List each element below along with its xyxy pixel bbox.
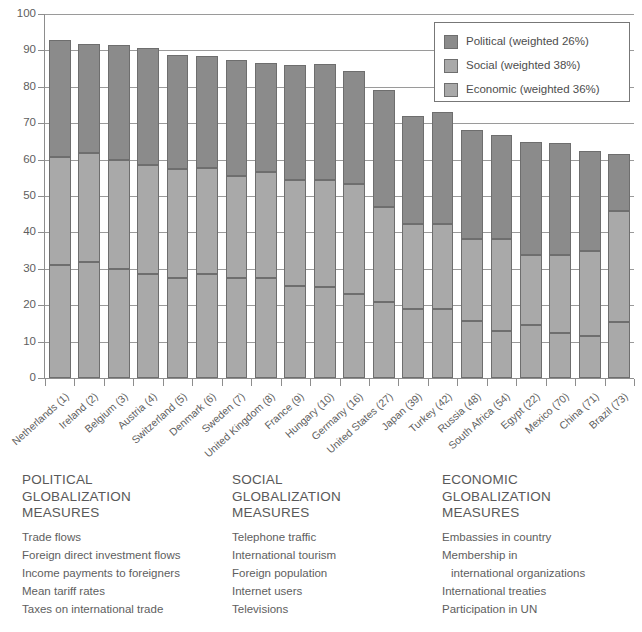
bar-segment-political[interactable] xyxy=(402,116,424,224)
measures-list: Trade flowsForeign direct investment flo… xyxy=(22,528,227,618)
bar-segment-political[interactable] xyxy=(432,112,454,224)
bar-segment-social[interactable] xyxy=(314,180,336,287)
bar-segment-social[interactable] xyxy=(78,153,100,262)
bar-group[interactable] xyxy=(343,14,365,378)
bar-group[interactable] xyxy=(255,14,277,378)
legend-item[interactable]: Political (weighted 26%) xyxy=(444,34,589,50)
measures-section: POLITICAL GLOBALIZATION MEASURESTrade fl… xyxy=(0,472,642,632)
measures-list-item: International treaties xyxy=(442,582,642,600)
measures-column: SOCIAL GLOBALIZATION MEASURESTelephone t… xyxy=(232,472,437,618)
gridline xyxy=(45,269,634,270)
legend-item[interactable]: Economic (weighted 36%) xyxy=(444,82,600,98)
y-tick-label: 80 xyxy=(2,81,36,93)
bar-segment-social[interactable] xyxy=(255,172,277,278)
bar-segment-social[interactable] xyxy=(432,224,454,308)
bar-group[interactable] xyxy=(314,14,336,378)
bar-segment-political[interactable] xyxy=(491,135,513,239)
bar-group[interactable] xyxy=(78,14,100,378)
bar-segment-social[interactable] xyxy=(196,168,218,274)
bar-segment-political[interactable] xyxy=(108,45,130,161)
bar-segment-social[interactable] xyxy=(137,165,159,274)
bar-group[interactable] xyxy=(196,14,218,378)
bar-segment-social[interactable] xyxy=(108,160,130,268)
measures-column-heading: SOCIAL GLOBALIZATION MEASURES xyxy=(232,472,437,522)
measures-list-item: Foreign population xyxy=(232,564,437,582)
bar-segment-social[interactable] xyxy=(49,157,71,265)
measures-column: POLITICAL GLOBALIZATION MEASURESTrade fl… xyxy=(22,472,227,618)
bar-segment-political[interactable] xyxy=(167,55,189,169)
bar-segment-political[interactable] xyxy=(226,60,248,176)
measures-list-item: Membership in xyxy=(442,546,642,564)
measures-list-item: International tourism xyxy=(232,546,437,564)
measures-list-item: Mean tariff rates xyxy=(22,582,227,600)
legend-label: Political (weighted 26%) xyxy=(466,36,589,48)
measures-list-item: Income payments to foreigners xyxy=(22,564,227,582)
bar-group[interactable] xyxy=(402,14,424,378)
measures-list-item: Taxes on international trade xyxy=(22,600,227,618)
bar-segment-political[interactable] xyxy=(549,143,571,255)
y-tick-label: 70 xyxy=(2,117,36,129)
x-tick-mark xyxy=(45,379,46,386)
globalization-index-chart: 0102030405060708090100 Netherlands (1)Ir… xyxy=(0,0,642,470)
bar-segment-social[interactable] xyxy=(549,255,571,333)
legend-swatch-icon xyxy=(444,59,458,73)
y-tick-label: 90 xyxy=(2,44,36,56)
bar-segment-social[interactable] xyxy=(608,211,630,322)
bar-segment-political[interactable] xyxy=(196,56,218,169)
bar-segment-social[interactable] xyxy=(491,239,513,331)
gridline xyxy=(45,305,634,306)
measures-column: ECONOMIC GLOBALIZATION MEASURESEmbassies… xyxy=(442,472,642,618)
chart-legend: Political (weighted 26%)Social (weighted… xyxy=(434,22,630,102)
gridline xyxy=(45,123,634,124)
measures-list-item: Telephone traffic xyxy=(232,528,437,546)
bar-segment-political[interactable] xyxy=(314,64,336,180)
bar-group[interactable] xyxy=(108,14,130,378)
bar-group[interactable] xyxy=(49,14,71,378)
y-tick-label: 60 xyxy=(2,154,36,166)
bar-segment-social[interactable] xyxy=(579,251,601,336)
bar-segment-social[interactable] xyxy=(284,180,306,286)
y-tick-label: 40 xyxy=(2,226,36,238)
y-tick-label: 0 xyxy=(2,372,36,384)
bar-segment-political[interactable] xyxy=(137,48,159,165)
legend-label: Economic (weighted 36%) xyxy=(466,84,600,96)
bar-segment-political[interactable] xyxy=(78,44,100,154)
bar-segment-political[interactable] xyxy=(461,130,483,238)
measures-list: Telephone trafficInternational tourismFo… xyxy=(232,528,437,618)
bar-segment-political[interactable] xyxy=(608,154,630,210)
bar-segment-political[interactable] xyxy=(49,40,71,156)
bar-group[interactable] xyxy=(226,14,248,378)
bar-segment-social[interactable] xyxy=(373,207,395,302)
measures-list-item: Internet users xyxy=(232,582,437,600)
bar-group[interactable] xyxy=(137,14,159,378)
bar-segment-political[interactable] xyxy=(373,90,395,207)
measures-list-item: international organizations xyxy=(442,564,642,582)
bar-segment-political[interactable] xyxy=(284,65,306,181)
y-tick-label: 100 xyxy=(2,8,36,20)
bar-segment-economic[interactable] xyxy=(49,265,71,378)
x-axis-labels: Netherlands (1)Ireland (2)Belgium (3)Aus… xyxy=(0,388,642,470)
bar-segment-political[interactable] xyxy=(579,151,601,251)
legend-swatch-icon xyxy=(444,83,458,97)
bar-group[interactable] xyxy=(373,14,395,378)
bar-segment-social[interactable] xyxy=(461,239,483,321)
bar-group[interactable] xyxy=(167,14,189,378)
bar-segment-political[interactable] xyxy=(255,63,277,172)
gridline xyxy=(45,14,634,15)
bar-segment-social[interactable] xyxy=(402,224,424,309)
bar-segment-political[interactable] xyxy=(343,71,365,184)
bar-segment-social[interactable] xyxy=(343,184,365,294)
bar-segment-social[interactable] xyxy=(520,255,542,325)
bar-group[interactable] xyxy=(284,14,306,378)
bar-segment-social[interactable] xyxy=(167,169,189,278)
legend-item[interactable]: Social (weighted 38%) xyxy=(444,58,580,74)
y-tick-label: 10 xyxy=(2,336,36,348)
measures-list-item: Televisions xyxy=(232,600,437,618)
measures-list-item: Embassies in country xyxy=(442,528,642,546)
y-tick-label: 30 xyxy=(2,263,36,275)
bar-segment-social[interactable] xyxy=(226,176,248,278)
bar-segment-political[interactable] xyxy=(520,142,542,255)
measures-list-item: Foreign direct investment flows xyxy=(22,546,227,564)
gridline xyxy=(45,232,634,233)
measures-list-item: Trade flows xyxy=(22,528,227,546)
